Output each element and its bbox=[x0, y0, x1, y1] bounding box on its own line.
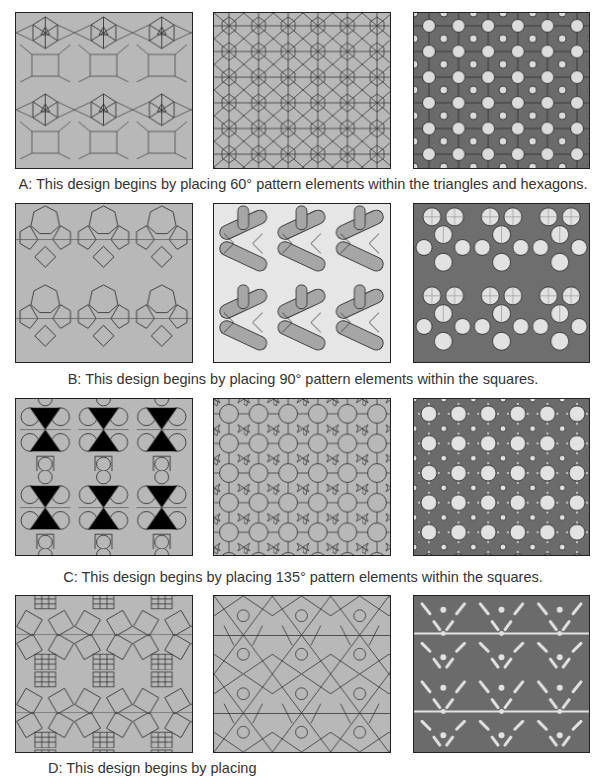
panel-a-construction bbox=[213, 12, 391, 169]
pattern-c2-image bbox=[214, 399, 390, 555]
panel-c-interlaced bbox=[413, 398, 590, 556]
panel-a-tessellation bbox=[15, 12, 193, 169]
panel-d-interlaced bbox=[413, 595, 590, 753]
caption-b: B: This design begins by placing 90° pat… bbox=[0, 371, 606, 387]
panel-b-construction bbox=[213, 203, 391, 363]
caption-d: D: This design begins by placing bbox=[48, 760, 257, 776]
panel-a-interlaced bbox=[413, 12, 590, 169]
panel-d-tessellation bbox=[15, 595, 193, 753]
pattern-c3-image bbox=[414, 399, 589, 555]
panel-c-construction bbox=[213, 398, 391, 556]
panel-d-construction bbox=[213, 595, 391, 753]
pattern-d3-image bbox=[414, 596, 589, 752]
pattern-c1-image bbox=[16, 399, 192, 555]
panel-b-result bbox=[413, 203, 590, 363]
pattern-b3-image bbox=[414, 204, 589, 362]
panel-b-tessellation bbox=[15, 203, 193, 363]
caption-a: A: This design begins by placing 60° pat… bbox=[0, 176, 606, 192]
pattern-d1-image bbox=[16, 596, 192, 752]
pattern-b1-image bbox=[16, 204, 192, 362]
panel-c-tessellation bbox=[15, 398, 193, 556]
pattern-a2-image bbox=[214, 13, 390, 168]
pattern-a1-image bbox=[16, 13, 192, 168]
caption-c: C: This design begins by placing 135° pa… bbox=[0, 569, 606, 585]
pattern-b2-image bbox=[214, 204, 390, 362]
pattern-a3-image bbox=[414, 13, 589, 168]
pattern-d2-image bbox=[214, 596, 390, 752]
